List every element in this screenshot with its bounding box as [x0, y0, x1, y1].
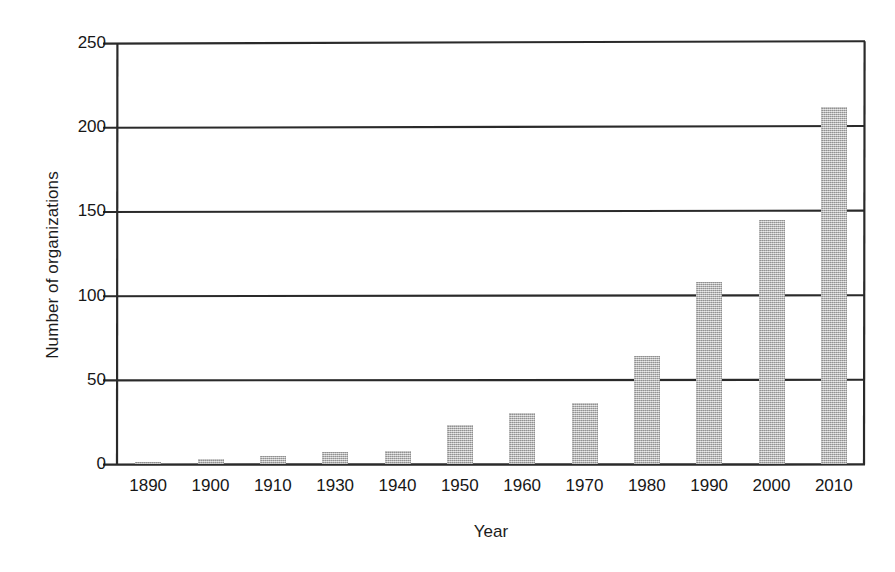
bar-1980: [634, 356, 660, 464]
x-tick-label-2000: 2000: [753, 476, 791, 496]
y-axis-title: Number of organizations: [43, 115, 63, 415]
bar-2010: [821, 107, 847, 464]
bar-1940: [385, 451, 411, 464]
bar-2000: [759, 220, 785, 464]
x-tick-label-1980: 1980: [628, 476, 666, 496]
x-tick-label-1930: 1930: [316, 476, 354, 496]
x-tick-label-1900: 1900: [192, 476, 230, 496]
x-axis-title: Year: [117, 522, 865, 542]
x-tick-label-1890: 1890: [129, 476, 167, 496]
x-tick-label-1910: 1910: [254, 476, 292, 496]
y-tick-label-250: 250: [78, 33, 106, 53]
x-tick-label-1950: 1950: [441, 476, 479, 496]
bar-chart-figure: Number of organizations 0 50 100 150 200…: [0, 0, 895, 572]
y-tick-label-0: 0: [97, 454, 106, 474]
bar-1930: [322, 452, 348, 464]
bar-1990: [696, 282, 722, 464]
bar-1900: [198, 459, 224, 464]
x-tick-label-1990: 1990: [690, 476, 728, 496]
plot-area: 0 50 100 150 200 250: [117, 43, 865, 464]
bar-1890: [135, 462, 161, 464]
bars-layer: [117, 43, 865, 464]
y-tick-label-200: 200: [78, 117, 106, 137]
y-tick-label-150: 150: [78, 201, 106, 221]
x-tick-label-1970: 1970: [566, 476, 604, 496]
x-tick-label-1940: 1940: [379, 476, 417, 496]
bar-1950: [447, 425, 473, 464]
bar-1910: [260, 456, 286, 464]
y-tick-label-50: 50: [87, 370, 106, 390]
x-tick-label-2010: 2010: [815, 476, 853, 496]
bar-1960: [509, 413, 535, 464]
x-tick-label-1960: 1960: [503, 476, 541, 496]
y-tick-label-100: 100: [78, 286, 106, 306]
bar-1970: [572, 403, 598, 464]
